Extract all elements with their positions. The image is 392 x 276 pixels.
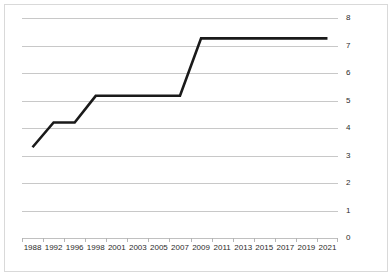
x-axis-tick-8 bbox=[191, 238, 192, 242]
x-axis-tick-14 bbox=[317, 238, 318, 242]
x-axis-tick-7 bbox=[169, 238, 170, 242]
x-axis-tick-label-2011: 2011 bbox=[214, 243, 231, 253]
x-axis-tick-label-2005: 2005 bbox=[150, 243, 168, 253]
x-axis-tick-11 bbox=[254, 238, 255, 242]
x-axis-tick-4 bbox=[106, 238, 107, 242]
plot-area bbox=[22, 18, 338, 238]
series-line-value bbox=[33, 38, 328, 147]
y-axis-tick-label-5: 5 bbox=[346, 97, 350, 105]
x-axis-tick-5 bbox=[127, 238, 128, 242]
x-axis-tick-13 bbox=[296, 238, 297, 242]
x-axis-ticks bbox=[22, 238, 338, 242]
x-axis-tick-10 bbox=[233, 238, 234, 242]
x-axis-tick-label-2007: 2007 bbox=[171, 243, 189, 253]
x-axis-tick-9 bbox=[212, 238, 213, 242]
x-axis-tick-label-2015: 2015 bbox=[255, 243, 273, 253]
x-axis-tick-label-1988: 1988 bbox=[24, 243, 42, 253]
y-axis-tick-label-8: 8 bbox=[346, 14, 350, 22]
x-axis-tick-1 bbox=[43, 238, 44, 242]
x-axis-tick-2 bbox=[64, 238, 65, 242]
y-axis-tick-label-7: 7 bbox=[346, 42, 350, 50]
x-axis-tick-label-1992: 1992 bbox=[45, 243, 63, 253]
series-layer bbox=[22, 18, 338, 238]
x-axis-tick-label-2003: 2003 bbox=[129, 243, 147, 253]
y-axis-tick-label-6: 6 bbox=[346, 69, 350, 77]
y-axis-labels: 012345678 bbox=[340, 18, 370, 238]
x-axis-tick-label-1996: 1996 bbox=[66, 243, 84, 253]
x-axis-tick-label-2013: 2013 bbox=[234, 243, 252, 253]
x-axis-tick-3 bbox=[85, 238, 86, 242]
x-axis-labels: 1988199219961998200120032005200720092011… bbox=[22, 243, 338, 257]
x-axis-tick-label-2001: 2001 bbox=[108, 243, 126, 253]
x-axis-tick-15 bbox=[337, 238, 338, 242]
x-axis-tick-label-2017: 2017 bbox=[276, 243, 294, 253]
x-axis-tick-label-2009: 2009 bbox=[192, 243, 210, 253]
x-axis-tick-12 bbox=[275, 238, 276, 242]
x-axis-tick-label-2021: 2021 bbox=[319, 243, 337, 253]
x-axis-tick-0 bbox=[22, 238, 23, 242]
x-axis-tick-6 bbox=[148, 238, 149, 242]
y-axis-tick-label-0: 0 bbox=[346, 234, 350, 242]
chart-container: 012345678 198819921996199820012003200520… bbox=[0, 0, 392, 276]
y-axis-tick-label-2: 2 bbox=[346, 179, 350, 187]
x-axis-tick-label-1998: 1998 bbox=[87, 243, 105, 253]
x-axis-tick-label-2019: 2019 bbox=[297, 243, 315, 253]
y-axis-tick-label-3: 3 bbox=[346, 152, 350, 160]
y-axis-tick-label-1: 1 bbox=[346, 207, 350, 215]
y-axis-tick-label-4: 4 bbox=[346, 124, 350, 132]
